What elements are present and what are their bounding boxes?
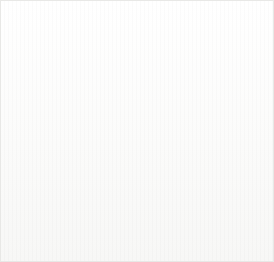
label-backbone: Backbone xyxy=(75,225,134,239)
skeleton-figure: Neck Backbone Hip joint Tail xyxy=(0,0,274,262)
label-neck: Neck xyxy=(23,203,53,217)
label-tail: Tail xyxy=(223,184,243,198)
label-layer: Neck Backbone Hip joint Tail xyxy=(0,0,274,262)
label-hip-joint: Hip joint xyxy=(154,212,202,226)
